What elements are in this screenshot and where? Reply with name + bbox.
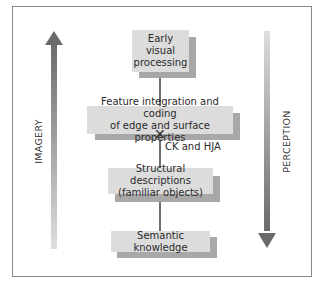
- disruption-cross-icon: ✕: [154, 127, 166, 141]
- patient-annotation: CK and HJA: [165, 141, 221, 152]
- node-label-line: Feature integration and coding: [89, 96, 231, 120]
- node-label-line: (familiar objects): [118, 187, 203, 199]
- node-label-line: visual: [146, 45, 175, 57]
- node-label-line: Structural descriptions: [110, 163, 211, 187]
- imagery-label: IMAGERY: [33, 112, 44, 172]
- perception-label: PERCEPTION: [281, 107, 292, 177]
- node-label-line: processing: [134, 57, 188, 69]
- node-label-line: Early: [148, 33, 173, 45]
- node-label-line: Semantic knowledge: [113, 230, 208, 254]
